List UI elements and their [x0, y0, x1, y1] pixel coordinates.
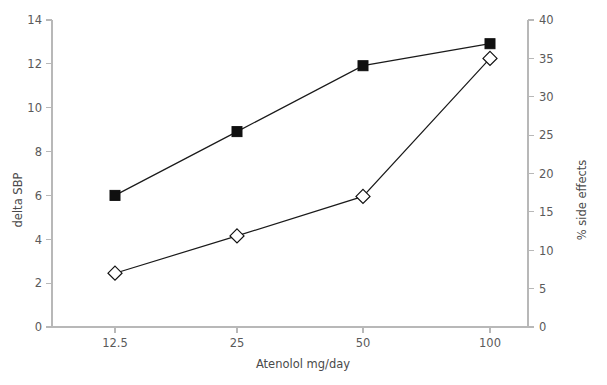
x-axis-label: Atenolol mg/day: [256, 357, 350, 371]
y2-ticklabel-40: 40: [539, 13, 554, 27]
series-side-effects: [108, 51, 497, 280]
x-axis-ticks: [115, 327, 490, 333]
series-delta-sbp: [110, 39, 495, 201]
y-axis-left-label: delta SBP: [11, 172, 25, 227]
y-axis-left-ticklabels: 0 2 4 6 8 10 12 14: [27, 13, 42, 334]
y2-ticklabel-5: 5: [539, 282, 546, 296]
x-ticklabel-25: 25: [230, 336, 245, 350]
chart-figure: 0 2 4 6 8 10 12 14 0 5 10 15 20 2: [0, 0, 607, 385]
y2-ticklabel-25: 25: [539, 128, 554, 142]
series-delta-sbp-point-100: [485, 39, 495, 49]
x-ticklabel-100: 100: [479, 336, 501, 350]
series-delta-sbp-point-12-5: [110, 190, 120, 200]
y-ticklabel-12: 12: [27, 57, 42, 71]
y-axis-right-label: % side effects: [575, 160, 589, 241]
series-side-effects-point-25: [230, 229, 244, 243]
y-ticklabel-4: 4: [35, 233, 42, 247]
y2-ticklabel-35: 35: [539, 52, 554, 66]
x-axis-ticklabels: 12.5 25 50 100: [102, 336, 501, 350]
y2-ticklabel-15: 15: [539, 205, 554, 219]
series-delta-sbp-point-25: [232, 127, 242, 137]
y2-ticklabel-10: 10: [539, 244, 554, 258]
y2-ticklabel-30: 30: [539, 90, 554, 104]
y-ticklabel-10: 10: [27, 101, 42, 115]
y2-ticklabel-20: 20: [539, 167, 554, 181]
series-side-effects-point-12-5: [108, 266, 122, 280]
series-delta-sbp-point-50: [358, 61, 368, 71]
y-axis-left-ticks: [46, 20, 52, 327]
y-ticklabel-0: 0: [35, 320, 42, 334]
y-ticklabel-6: 6: [35, 189, 42, 203]
chart-canvas: 0 2 4 6 8 10 12 14 0 5 10 15 20 2: [0, 0, 607, 385]
y-axis-right-ticks: [528, 20, 534, 327]
y-axis-right-ticklabels: 0 5 10 15 20 25 30 35 40: [539, 13, 554, 334]
y-ticklabel-14: 14: [27, 13, 42, 27]
x-ticklabel-50: 50: [356, 336, 371, 350]
y2-ticklabel-0: 0: [539, 320, 546, 334]
y-ticklabel-2: 2: [35, 276, 42, 290]
x-ticklabel-12-5: 12.5: [102, 336, 128, 350]
y-ticklabel-8: 8: [35, 145, 42, 159]
